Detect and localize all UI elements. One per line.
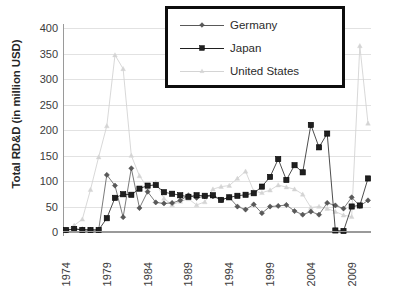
data-point <box>194 193 199 198</box>
legend-swatch-icon <box>180 42 224 54</box>
legend-swatch-icon <box>180 65 224 77</box>
data-point <box>121 192 126 197</box>
x-tick-label: 2009 <box>346 262 358 286</box>
y-tick-label: 100 <box>24 176 58 186</box>
data-point <box>112 195 117 200</box>
series-line <box>66 125 368 231</box>
data-point <box>113 53 118 57</box>
data-point <box>162 196 167 200</box>
data-point <box>202 200 207 204</box>
data-point <box>169 200 174 205</box>
data-point <box>267 174 272 179</box>
data-point <box>349 204 354 209</box>
y-tick-label: 400 <box>24 23 58 33</box>
y-tick-label: 250 <box>24 100 58 110</box>
legend-item-germany[interactable]: Germany <box>180 15 277 35</box>
data-point <box>121 215 126 220</box>
data-point <box>243 207 248 212</box>
y-tick-label: 150 <box>24 151 58 161</box>
y-axis-label: Total RD&D (in million USD) <box>10 14 22 214</box>
data-point <box>129 192 134 197</box>
data-point <box>218 197 223 202</box>
chart-figure: Total RD&D (in million USD) 400350300250… <box>0 0 396 287</box>
data-point <box>325 200 330 205</box>
data-point <box>276 203 281 208</box>
chart-legend: GermanyJapanUnited States <box>165 6 345 88</box>
data-point <box>276 183 281 187</box>
data-point <box>243 192 248 197</box>
data-point <box>80 217 85 221</box>
legend-item-japan[interactable]: Japan <box>180 38 261 58</box>
y-tick-label: 200 <box>24 125 58 135</box>
data-point <box>316 145 321 150</box>
series-germany <box>63 166 370 233</box>
data-point <box>227 195 232 200</box>
data-point <box>308 122 313 127</box>
data-point <box>300 170 305 175</box>
data-point <box>316 212 321 217</box>
data-point <box>186 194 191 199</box>
legend-label: United States <box>230 65 299 77</box>
data-point <box>129 166 134 171</box>
x-tick-label: 1974 <box>60 262 72 286</box>
data-point <box>88 187 93 191</box>
x-tick-label: 1994 <box>223 262 235 286</box>
data-point <box>153 182 158 187</box>
data-point <box>129 153 134 157</box>
data-point <box>104 124 109 128</box>
y-tick-label: 300 <box>24 74 58 84</box>
legend-item-united-states[interactable]: United States <box>180 61 299 81</box>
y-tick-label: 50 <box>24 202 58 212</box>
data-point <box>300 192 305 196</box>
series-line <box>66 168 368 230</box>
data-point <box>284 177 289 182</box>
x-tick-label: 1984 <box>142 262 154 286</box>
data-point <box>300 212 305 217</box>
data-point <box>365 198 370 203</box>
data-point <box>366 121 371 125</box>
x-axis-line <box>63 231 371 232</box>
y-axis-tick-labels: 400350300250200150100500 <box>22 0 58 287</box>
data-point <box>104 216 109 221</box>
data-point <box>137 174 142 178</box>
data-point <box>145 183 150 188</box>
y-tick-label: 0 <box>24 227 58 237</box>
data-point <box>96 155 101 159</box>
data-point <box>276 156 281 161</box>
data-point <box>137 205 142 210</box>
data-point <box>292 163 297 168</box>
data-point <box>202 193 207 198</box>
legend-label: Japan <box>230 42 261 54</box>
data-point <box>137 186 142 191</box>
data-point <box>161 190 166 195</box>
x-axis-tick-labels: 19741979198419891994199920042009 <box>63 240 371 286</box>
data-point <box>243 169 248 173</box>
x-tick-label: 1989 <box>182 262 194 286</box>
y-tick-label: 350 <box>24 49 58 59</box>
data-point <box>170 191 175 196</box>
data-point <box>161 201 166 206</box>
x-tick-label: 1979 <box>101 262 113 286</box>
data-point <box>259 184 264 189</box>
data-point <box>357 203 362 208</box>
data-point <box>325 131 330 136</box>
data-point <box>341 206 346 211</box>
data-point <box>210 193 215 198</box>
data-point <box>357 44 362 48</box>
data-point <box>268 188 273 192</box>
data-point <box>235 193 240 198</box>
data-point <box>365 176 370 181</box>
data-point <box>251 191 256 196</box>
data-point <box>308 209 313 214</box>
x-tick-label: 2004 <box>305 262 317 286</box>
legend-label: Germany <box>230 19 277 31</box>
legend-swatch-icon <box>180 19 224 31</box>
data-point <box>121 66 126 70</box>
x-tick-label: 1999 <box>264 262 276 286</box>
data-point <box>178 193 183 198</box>
